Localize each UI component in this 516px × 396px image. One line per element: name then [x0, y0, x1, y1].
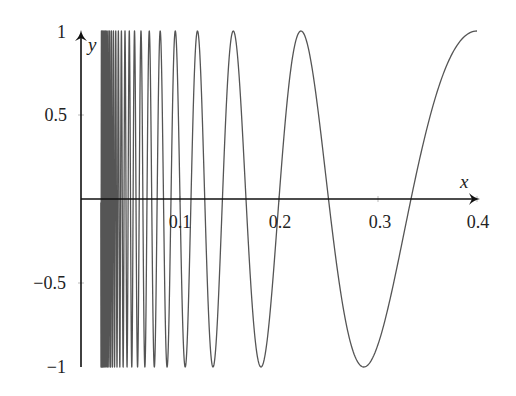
chart: x y 0.1 0.2 0.3 0.4 1 0.5 −0.5 −1: [0, 0, 516, 396]
chart-container: x y 0.1 0.2 0.3 0.4 1 0.5 −0.5 −1: [0, 0, 516, 396]
x-tick-label: 0.1: [169, 212, 192, 232]
x-axis-label: x: [459, 171, 469, 192]
y-tick-label: 0.5: [45, 105, 68, 125]
y-tick-label: −0.5: [33, 273, 66, 293]
x-tick-label: 0.3: [369, 212, 392, 232]
y-tick-label: 1: [57, 22, 66, 42]
y-axis-label: y: [86, 34, 97, 55]
x-axis: [81, 193, 480, 205]
y-tick-label: −1: [47, 357, 66, 377]
x-tick-label: 0.4: [467, 212, 490, 232]
x-tick-label: 0.2: [269, 212, 292, 232]
